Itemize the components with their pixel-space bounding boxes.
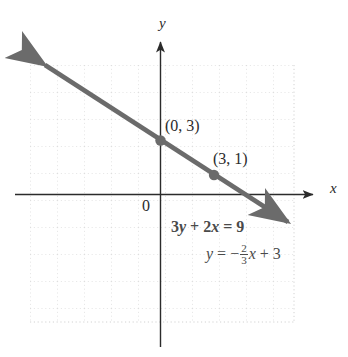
- origin-label: 0: [142, 198, 150, 214]
- eq2-var-y: y: [206, 245, 213, 262]
- eq-coef-3: 3: [171, 218, 179, 235]
- coordinate-plane: [0, 0, 348, 357]
- eq-equals: =: [223, 218, 232, 235]
- eq-var-x: x: [211, 218, 219, 235]
- grid-dots: [30, 65, 294, 322]
- eq2-minus: −: [230, 245, 239, 262]
- eq2-var-x: x: [249, 245, 256, 262]
- point-label-3-1: (3, 1): [213, 151, 248, 167]
- y-axis-label: y: [159, 16, 166, 31]
- eq2-plus: +: [260, 245, 269, 262]
- equation-standard-form: 3y+2x=9: [171, 219, 244, 235]
- point-label-0-3: (0, 3): [165, 118, 200, 134]
- graph-figure: y x 0 (0, 3) (3, 1) 3y+2x=9 y=−23x+3: [0, 0, 348, 357]
- eq2-intercept-3: 3: [273, 245, 281, 262]
- data-point-3-1: [209, 170, 219, 180]
- data-point-0-3: [155, 135, 165, 145]
- fraction-denominator: 3: [240, 255, 248, 266]
- eq2-equals: =: [217, 245, 226, 262]
- fraction-two-thirds: 23: [240, 243, 248, 266]
- eq-plus: +: [190, 218, 199, 235]
- x-axis-label: x: [330, 181, 337, 196]
- eq-var-y: y: [179, 218, 186, 235]
- eq-rhs-9: 9: [236, 218, 244, 235]
- equation-slope-intercept: y=−23x+3: [206, 244, 281, 267]
